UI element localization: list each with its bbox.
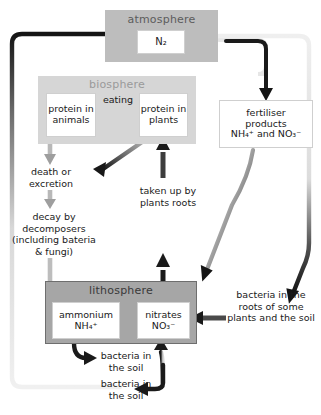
arrow-fertiliser-to-lithosphere [206, 150, 253, 272]
atmosphere-label: atmosphere [105, 14, 218, 26]
nitrates-formula-label: NO₃⁻ [152, 321, 175, 332]
nitrogen-gas-box: N₂ [137, 30, 185, 54]
n2-label: N₂ [155, 36, 167, 47]
bacteria-in-roots-label: bacteria in the roots of some plants and… [226, 289, 316, 324]
nitrogen-cycle-diagram: atmosphere N₂ biosphere protein in anima… [0, 0, 321, 415]
ammonium-name-label: ammonium [59, 310, 113, 321]
arrow-ammonium-to-nitrates [74, 343, 86, 358]
arrow-atmosphere-to-fertiliser [219, 40, 266, 74]
lithosphere-label: lithosphere [46, 285, 196, 297]
biosphere-label: biosphere [38, 79, 196, 91]
ammonium-formula-label: NH₄⁺ [74, 321, 97, 332]
arrowhead-death-to-decay [44, 199, 56, 209]
eating-label: eating [96, 94, 140, 106]
protein-in-animals-box: protein in animals [46, 93, 96, 137]
arrow-plants-to-death [103, 140, 145, 169]
arrowhead-plants-to-death [93, 162, 106, 177]
arrow-atmosphere-to-roots-right-loop [219, 36, 309, 296]
death-or-excretion-label: death or excretion [13, 166, 89, 189]
arrow-soil-to-nitrates [161, 352, 163, 383]
arrowhead-fertiliser-to-lithosphere [196, 265, 213, 284]
bacteria-in-the-soil-label-2: bacteria in the soil [93, 378, 159, 401]
protein-in-animals-label: protein in animals [47, 104, 95, 125]
taken-up-by-plants-roots-label: taken up by plants roots [128, 185, 208, 208]
arrowhead-animals-to-death [44, 154, 56, 165]
protein-in-plants-label: protein in plants [140, 104, 187, 125]
bacteria-in-the-soil-label-1: bacteria in the soil [93, 350, 159, 373]
protein-in-plants-box: protein in plants [139, 93, 188, 137]
arrow-atmosphere-to-fertiliser-dark [226, 41, 266, 90]
fertiliser-line-3: NH₄⁺ and NO₃⁻ [231, 129, 301, 140]
decay-by-decomposers-label: decay by decomposers (including bateria … [8, 211, 100, 257]
fertiliser-products-box: fertiliser products NH₄⁺ and NO₃⁻ [219, 100, 313, 148]
arrowhead-nitrates-up-lower [156, 253, 170, 267]
ammonium-box: ammonium NH₄⁺ [52, 302, 120, 339]
nitrates-name-label: nitrates [145, 310, 182, 321]
nitrates-box: nitrates NO₃⁻ [137, 302, 190, 339]
